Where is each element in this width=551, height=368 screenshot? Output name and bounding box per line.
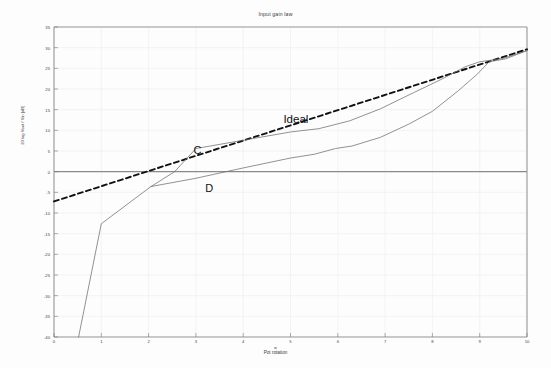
series-d — [151, 51, 527, 187]
x-tick-label: 8 — [425, 339, 439, 344]
grid-lines — [54, 27, 527, 337]
x-tick-label: 7 — [378, 339, 392, 344]
y-tick-label: 20 — [34, 87, 50, 92]
y-tick-label: 30 — [34, 45, 50, 50]
y-tick-label: 25 — [34, 66, 50, 71]
y-tick-label: 35 — [34, 25, 50, 30]
y-tick-label: 0 — [34, 169, 50, 174]
x-tick-label: 1 — [94, 339, 108, 344]
y-tick-label: 10 — [34, 128, 50, 133]
x-tick-label: 9 — [473, 339, 487, 344]
y-tick-label: -10 — [34, 211, 50, 216]
y-tick-label: -5 — [34, 190, 50, 195]
x-tick-label: 5 — [284, 339, 298, 344]
plot-canvas — [0, 0, 551, 368]
y-axis-label: 20 log Vout / Vin [dB] — [20, 80, 26, 170]
x-axis-label-text: Pot rotation — [264, 350, 288, 355]
annotation-d: D — [205, 182, 213, 194]
y-tick-label: -30 — [34, 293, 50, 298]
x-axis-label: α Pot rotation — [0, 345, 551, 356]
series-c — [79, 51, 527, 337]
x-tick-label: 0 — [47, 339, 61, 344]
y-tick-label: 15 — [34, 107, 50, 112]
y-axis-label-text: 20 log Vout / Vin [dB] — [20, 106, 26, 145]
x-tick-label: 2 — [142, 339, 156, 344]
annotation-ideal: Ideal — [283, 113, 308, 125]
chart-figure: Input gain law 20 log Vout / Vin [dB] α … — [0, 0, 551, 368]
x-tick-label: 10 — [520, 339, 534, 344]
x-tick-label: 3 — [189, 339, 203, 344]
y-tick-label: -35 — [34, 314, 50, 319]
annotation-c: C — [194, 144, 202, 156]
y-tick-label: 5 — [34, 149, 50, 154]
y-tick-label: -25 — [34, 273, 50, 278]
y-tick-label: -20 — [34, 252, 50, 257]
chart-title: Input gain law — [0, 11, 551, 17]
x-tick-label: 4 — [236, 339, 250, 344]
y-tick-label: -15 — [34, 231, 50, 236]
x-tick-label: 6 — [331, 339, 345, 344]
